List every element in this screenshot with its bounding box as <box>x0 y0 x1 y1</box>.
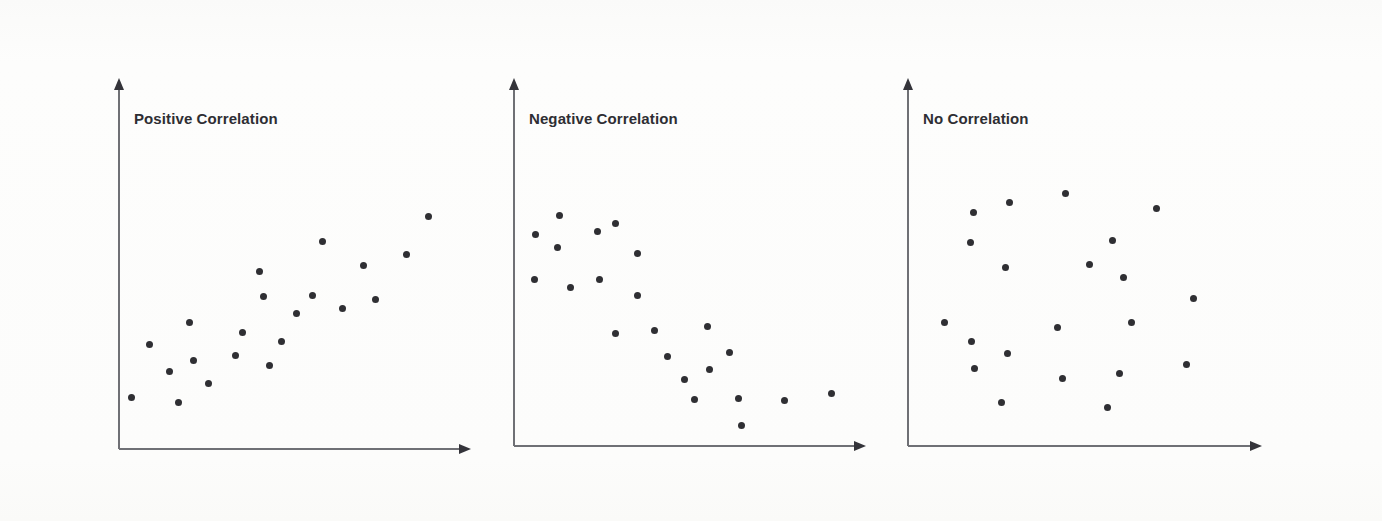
scatter-point <box>970 209 977 216</box>
axes-no-correlation <box>0 0 1382 521</box>
scatter-point <box>1190 295 1197 302</box>
scatter-point <box>1054 324 1061 331</box>
scatter-point <box>971 365 978 372</box>
chart-title-no-correlation: No Correlation <box>923 110 1029 127</box>
scatter-point <box>1002 264 1009 271</box>
scatter-point <box>1120 274 1127 281</box>
scatter-point <box>1059 375 1066 382</box>
correlation-scatter-figure: Positive Correlation Negative Correlatio… <box>0 0 1382 521</box>
scatter-point <box>1004 350 1011 357</box>
y-axis-arrowhead-icon <box>903 78 913 90</box>
scatter-point <box>1128 319 1135 326</box>
x-axis-arrowhead-icon <box>1250 441 1262 451</box>
scatter-point <box>1086 261 1093 268</box>
scatter-point <box>998 399 1005 406</box>
scatter-point <box>967 239 974 246</box>
